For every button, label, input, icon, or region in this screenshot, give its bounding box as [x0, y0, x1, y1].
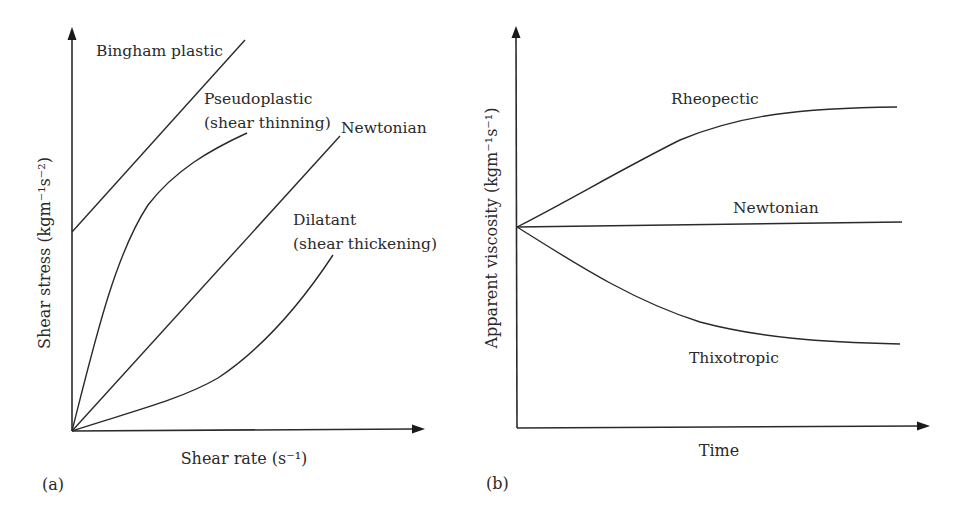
- rheology-figure: Bingham plastic Pseudoplastic (shear thi…: [0, 0, 963, 522]
- panel-b-y-axis-label: Apparent viscosity (kgm⁻¹s⁻¹): [482, 108, 501, 350]
- panel-b-x-axis: [517, 426, 920, 428]
- label-dilatant-line1: Dilatant: [293, 211, 357, 229]
- panel-a-curve-dilatant: [72, 255, 333, 431]
- panel-a-curve-pseudoplastic: [72, 133, 247, 431]
- label-pseudoplastic-line2: (shear thinning): [204, 114, 331, 132]
- label-rheopectic: Rheopectic: [671, 90, 759, 108]
- label-pseudoplastic-line1: Pseudoplastic: [204, 90, 312, 108]
- panel-b: Rheopectic Newtonian Thixotropic Time Ap…: [482, 26, 930, 493]
- panel-a-y-axis-arrow-icon: [68, 27, 77, 40]
- panel-a-curve-bingham-plastic: [72, 40, 245, 232]
- label-dilatant-line2: (shear thickening): [293, 235, 437, 253]
- label-newtonian-a: Newtonian: [341, 119, 427, 137]
- panel-b-curve-newtonian: [517, 222, 902, 227]
- panel-a-x-axis: [72, 429, 414, 431]
- label-thixotropic: Thixotropic: [689, 349, 779, 367]
- panel-b-y-axis-arrow-icon: [512, 26, 521, 38]
- panel-b-x-axis-arrow-icon: [917, 422, 930, 431]
- panel-b-y-axis: [516, 36, 517, 428]
- panel-b-x-axis-label: Time: [699, 441, 739, 460]
- panel-a: Bingham plastic Pseudoplastic (shear thi…: [35, 27, 437, 494]
- panel-b-label: (b): [486, 474, 509, 493]
- panel-a-x-axis-arrow-icon: [412, 425, 425, 434]
- label-bingham-plastic: Bingham plastic: [96, 42, 223, 60]
- panel-a-y-axis-label: Shear stress (kgm⁻¹s⁻²): [35, 157, 54, 349]
- panel-a-label: (a): [42, 475, 64, 494]
- panel-a-x-axis-label: Shear rate (s⁻¹): [181, 449, 308, 468]
- panel-b-curve-thixotropic: [517, 227, 900, 344]
- panel-b-curve-rheopectic: [517, 107, 897, 227]
- label-newtonian-b: Newtonian: [733, 199, 819, 217]
